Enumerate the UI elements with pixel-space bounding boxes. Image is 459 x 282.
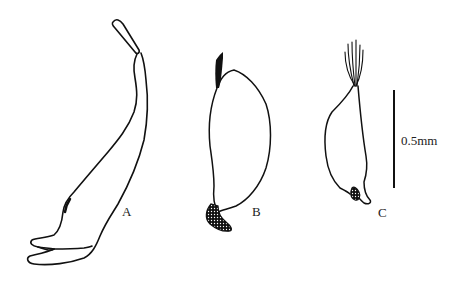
knob-c (351, 187, 360, 200)
panel-label-b: B (252, 205, 261, 218)
panel-label-a: A (122, 205, 131, 218)
bristles-c (345, 40, 363, 86)
specimen-drawings (0, 0, 459, 282)
drawing-c (325, 40, 370, 204)
panel-label-c: C (378, 206, 387, 219)
drawing-a (28, 20, 148, 265)
outline-b (209, 70, 270, 212)
figure-canvas: A B C 0.5mm (0, 0, 459, 282)
scale-bar-label: 0.5mm (401, 134, 437, 147)
